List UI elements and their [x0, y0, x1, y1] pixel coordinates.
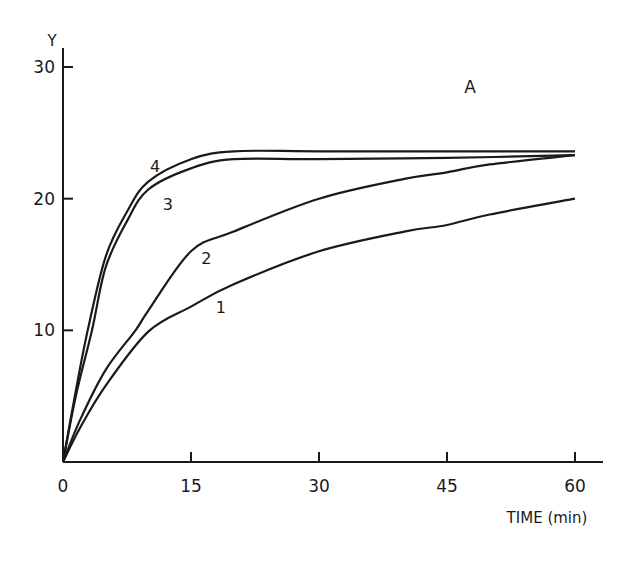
y-axis-title: Y: [46, 32, 57, 50]
x-tick-label: 15: [180, 476, 202, 496]
x-tick-label: 30: [308, 476, 330, 496]
curve-label-4: 4: [150, 157, 160, 176]
x-axis-title: TIME (min): [506, 509, 588, 527]
x-tick-label: 45: [436, 476, 458, 496]
y-tick-label: 30: [33, 57, 55, 77]
axes: 015304560102030YTIME (min): [33, 32, 603, 527]
curve-3: [63, 155, 575, 462]
curves: [63, 151, 575, 462]
curve-label-3: 3: [163, 195, 173, 214]
x-tick-label: 0: [58, 476, 69, 496]
labels: 1234A: [150, 77, 476, 317]
x-tick-label: 60: [564, 476, 586, 496]
y-tick-label: 20: [33, 189, 55, 209]
curve-label-1: 1: [216, 298, 226, 317]
panel-label: A: [464, 77, 476, 97]
curve-2: [63, 155, 575, 462]
chart-canvas: 015304560102030YTIME (min) 1234A: [0, 0, 635, 572]
y-tick-label: 10: [33, 320, 55, 340]
curve-1: [63, 199, 575, 462]
curve-label-2: 2: [201, 249, 211, 268]
